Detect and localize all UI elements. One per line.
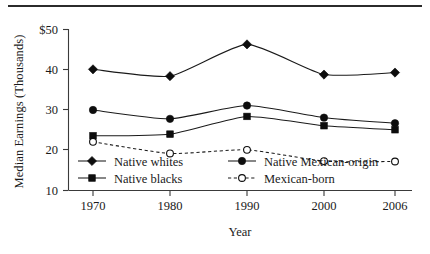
- x-tick-label-2006: 2006: [383, 199, 408, 213]
- chart-legend: Native whitesNative Mexican-originNative…: [78, 155, 379, 186]
- series-native-whites: [88, 40, 399, 81]
- x-tick-label-1980: 1980: [158, 199, 183, 213]
- plot-area: $50 40 30 20 10 1970 1980 1990 2000 2006…: [0, 0, 430, 254]
- x-tick-label-2000: 2000: [312, 199, 337, 213]
- x-tick-label-1990: 1990: [235, 199, 260, 213]
- series-line: [93, 44, 395, 76]
- y-tick-label-40: 40: [46, 63, 59, 77]
- data-point-1990: [243, 102, 250, 109]
- legend-marker: [238, 157, 245, 164]
- x-axis-ticks: [93, 191, 395, 197]
- data-series-layer: [88, 40, 399, 165]
- data-point-2006: [392, 158, 399, 165]
- legend-marker: [89, 175, 96, 182]
- legend-item-mexican-born: Mexican-born: [228, 172, 336, 186]
- legend-label: Mexican-born: [264, 172, 336, 186]
- data-point-1990: [242, 40, 251, 49]
- legend-label: Native Mexican-origin: [264, 155, 379, 169]
- y-axis-ticks: [63, 30, 69, 191]
- data-point-1980: [167, 131, 174, 138]
- y-tick-label-10: 10: [46, 184, 59, 198]
- data-point-2006: [392, 126, 399, 133]
- data-point-1970: [90, 138, 97, 145]
- data-point-2000: [319, 70, 328, 79]
- x-axis-tick-labels: 1970 1980 1990 2000 2006: [81, 199, 408, 213]
- data-point-1990: [244, 113, 251, 120]
- data-point-2000: [320, 114, 327, 121]
- data-point-1990: [244, 146, 251, 153]
- data-point-1970: [88, 65, 97, 74]
- legend-label: Native blacks: [114, 172, 183, 186]
- series-native-blacks: [90, 113, 399, 139]
- legend-item-native-mexican-origin: Native Mexican-origin: [228, 155, 379, 169]
- data-point-2000: [321, 122, 328, 129]
- data-point-1980: [166, 115, 173, 122]
- legend-marker: [239, 175, 246, 182]
- data-point-2006: [391, 120, 398, 127]
- y-tick-label-30: 30: [46, 103, 59, 117]
- y-tick-label-20: 20: [46, 143, 59, 157]
- data-point-2006: [390, 68, 399, 77]
- data-point-1980: [165, 72, 174, 81]
- data-point-1970: [89, 106, 96, 113]
- y-axis-tick-labels: $50 40 30 20 10: [39, 23, 58, 198]
- legend-label: Native whites: [114, 155, 183, 169]
- legend-marker: [87, 156, 96, 165]
- x-tick-label-1970: 1970: [81, 199, 106, 213]
- y-tick-label-50: $50: [39, 23, 58, 37]
- legend-item-native-whites: Native whites: [78, 155, 183, 169]
- earnings-line-chart: Median Earnings (Thousands) Year $50 40 …: [0, 0, 430, 254]
- legend-item-native-blacks: Native blacks: [78, 172, 183, 186]
